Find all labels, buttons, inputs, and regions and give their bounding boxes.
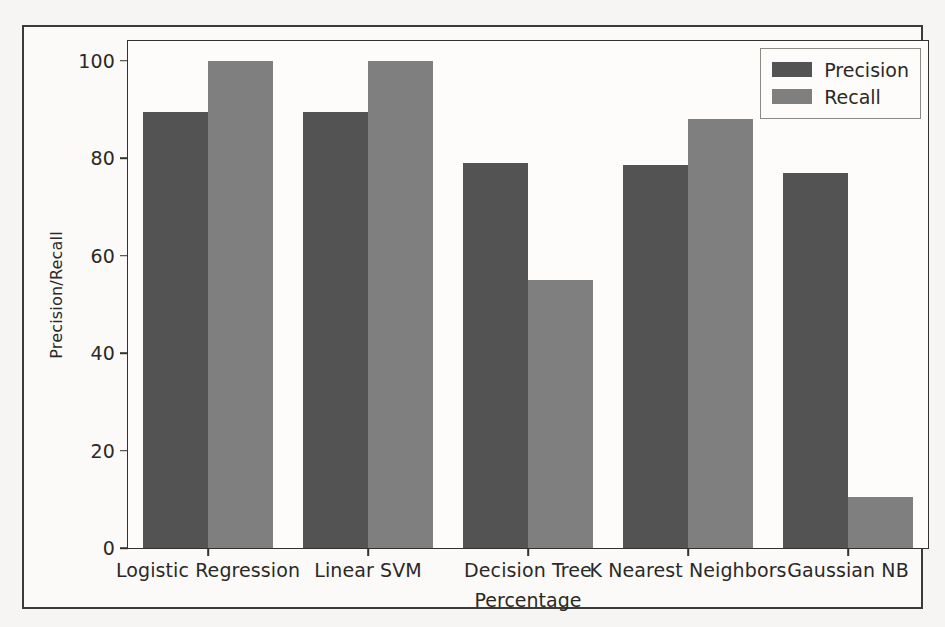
x-tick-mark xyxy=(687,548,689,556)
bar-precision-4 xyxy=(783,173,848,548)
legend-label: Precision xyxy=(824,59,909,81)
chart-legend: PrecisionRecall xyxy=(760,48,921,119)
plot-area: Precision/Recall 020406080100 Logistic R… xyxy=(127,40,929,549)
legend-item-precision: Precision xyxy=(772,56,909,83)
y-tick-label: 20 xyxy=(90,440,128,462)
bar-precision-0 xyxy=(143,112,208,548)
y-tick-label: 100 xyxy=(78,50,128,72)
chart-figure: Precision/Recall 020406080100 Logistic R… xyxy=(48,29,923,607)
y-tick-label: 0 xyxy=(103,537,128,559)
y-axis-label: Precision/Recall xyxy=(47,231,66,359)
bar-recall-0 xyxy=(208,61,273,549)
bar-precision-3 xyxy=(623,165,688,548)
legend-swatch-precision xyxy=(772,62,812,77)
x-axis-label: Percentage xyxy=(475,589,582,611)
bar-recall-2 xyxy=(528,280,593,548)
x-tick-mark xyxy=(847,548,849,556)
legend-label: Recall xyxy=(824,86,881,108)
page-border: Precision/Recall 020406080100 Logistic R… xyxy=(22,25,923,609)
x-tick-label: K Nearest Neighbors xyxy=(589,559,786,581)
x-tick-label: Logistic Regression xyxy=(116,559,300,581)
bar-recall-3 xyxy=(688,119,753,548)
x-tick-label: Decision Tree xyxy=(464,559,592,581)
x-tick-label: Linear SVM xyxy=(314,559,422,581)
x-tick-label: Gaussian NB xyxy=(787,559,909,581)
scanned-page: Precision/Recall 020406080100 Logistic R… xyxy=(0,0,945,627)
bar-precision-2 xyxy=(463,163,528,548)
y-tick-label: 40 xyxy=(90,342,128,364)
bar-precision-1 xyxy=(303,112,368,548)
x-tick-mark xyxy=(367,548,369,556)
y-tick-label: 60 xyxy=(90,245,128,267)
legend-swatch-recall xyxy=(772,89,812,104)
legend-item-recall: Recall xyxy=(772,83,909,110)
bar-recall-4 xyxy=(848,497,913,548)
y-tick-label: 80 xyxy=(90,147,128,169)
x-tick-mark xyxy=(527,548,529,556)
x-tick-mark xyxy=(207,548,209,556)
bar-recall-1 xyxy=(368,61,433,549)
